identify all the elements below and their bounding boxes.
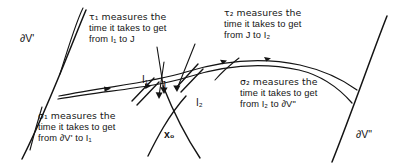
figure-canvas: ∂V' ∂V" I₁ J I₂ x₀ τ₁ measures the time … <box>0 0 414 166</box>
annotation-tau2-line-3: from J to I₂ <box>224 30 301 42</box>
annotation-sigma1: σ₁ measures the time it takes to get fro… <box>38 110 116 145</box>
annotation-sigma1-line-3: from ∂V' to I₁ <box>38 133 116 145</box>
point-J-label: J <box>161 80 166 91</box>
annotation-sigma1-line-1: σ₁ measures the <box>38 110 116 122</box>
point-I1-label: I₁ <box>142 74 148 85</box>
annotation-tau1: τ₁ measures the time it takes to get fro… <box>89 11 166 46</box>
annotation-tau1-line-2: time it takes to get <box>89 23 166 35</box>
annotation-sigma2-line-1: σ₂ measures the <box>240 76 318 88</box>
transversal-left <box>148 96 186 156</box>
leader-to-I2 <box>177 44 195 89</box>
point-I2-label: I₂ <box>196 97 203 108</box>
transversal-lines <box>148 86 200 158</box>
annotation-tau1-line-3: from I₁ to J <box>89 34 166 46</box>
boundary-right-curve <box>332 16 387 162</box>
leader-tau1-stem <box>60 8 83 74</box>
annotation-tau2-line-1: τ₂ measures the <box>224 7 301 19</box>
transversal-right <box>163 86 200 158</box>
annotation-sigma2-line-2: time it takes to get <box>240 88 318 100</box>
annotation-sigma2: σ₂ measures the time it takes to get fro… <box>240 76 318 111</box>
boundary-left-label: ∂V' <box>20 32 34 44</box>
point-x0-label: x₀ <box>164 128 175 140</box>
boundary-right-label: ∂V" <box>356 128 372 140</box>
annotation-tau2: τ₂ measures the time it takes to get fro… <box>224 7 301 42</box>
annotation-sigma1-line-2: time it takes to get <box>38 122 116 134</box>
annotation-sigma2-line-3: from I₂ to ∂V" <box>240 99 318 111</box>
annotation-tau1-line-1: τ₁ measures the <box>89 11 166 23</box>
annotation-tau2-line-2: time it takes to get <box>224 19 301 31</box>
